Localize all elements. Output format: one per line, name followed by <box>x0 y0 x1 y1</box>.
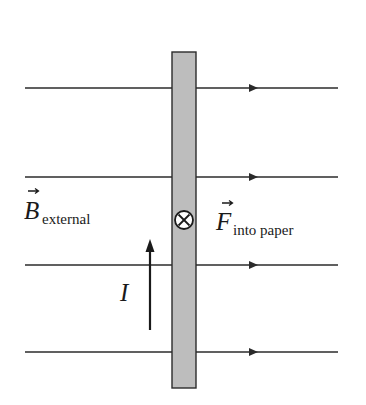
current-direction-arrow-icon <box>146 239 155 330</box>
vector-arrow-icon <box>28 189 39 194</box>
force-label: F into paper <box>215 201 293 239</box>
b-field-label: B external <box>24 189 90 228</box>
into-page-cross-icon <box>175 211 193 229</box>
vector-arrow-icon <box>222 201 233 206</box>
current-label: I <box>119 279 130 306</box>
force-symbol: F <box>215 208 232 235</box>
field-arrow-1-icon <box>249 84 258 92</box>
force-subscript: into paper <box>233 222 293 238</box>
field-arrow-4-icon <box>249 348 258 356</box>
b-field-symbol: B <box>24 197 39 224</box>
field-arrow-3-icon <box>249 261 258 269</box>
b-field-subscript: external <box>42 211 90 227</box>
diagram-canvas: B external F into paper I <box>0 0 366 405</box>
field-arrow-2-icon <box>249 173 258 181</box>
